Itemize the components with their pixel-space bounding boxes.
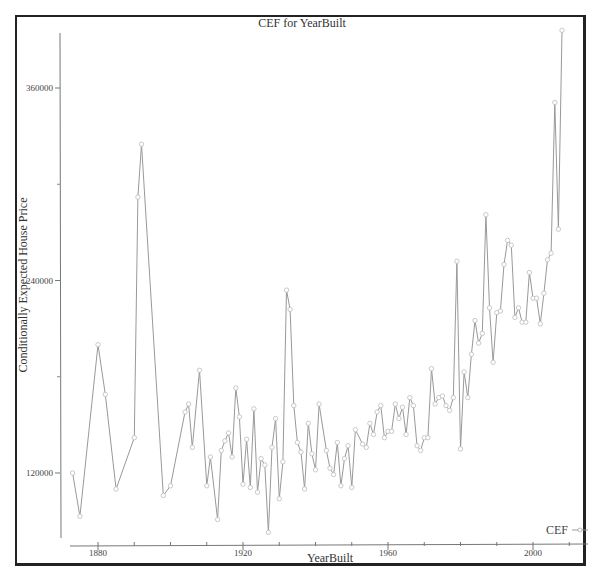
- data-point-marker: [415, 444, 419, 448]
- data-point-marker: [393, 402, 397, 406]
- data-point-marker: [219, 448, 223, 452]
- legend: CEF: [546, 523, 588, 537]
- data-point-marker: [542, 291, 546, 295]
- data-point-marker: [292, 403, 296, 407]
- x-tick-label: 2000: [524, 548, 543, 558]
- data-point-marker: [266, 530, 270, 534]
- x-axis-label: YearBuilt: [307, 551, 354, 565]
- data-point-marker: [132, 436, 136, 440]
- data-point-marker: [284, 288, 288, 292]
- data-point-marker: [259, 456, 263, 460]
- data-point-marker: [527, 270, 531, 274]
- data-point-marker: [161, 493, 165, 497]
- y-tick-label: 120000: [26, 468, 54, 478]
- data-point-marker: [534, 296, 538, 300]
- data-point-marker: [389, 429, 393, 433]
- data-point-marker: [426, 436, 430, 440]
- data-point-marker: [168, 484, 172, 488]
- data-point-marker: [545, 258, 549, 262]
- data-point-marker: [382, 436, 386, 440]
- y-axis-ticks: 120000240000360000: [26, 83, 60, 478]
- data-point-marker: [183, 410, 187, 414]
- data-point-marker: [524, 320, 528, 324]
- data-point-marker: [270, 445, 274, 449]
- legend-label-cef: CEF: [546, 523, 568, 537]
- data-point-marker: [306, 421, 310, 425]
- data-point-marker: [538, 322, 542, 326]
- data-point-marker: [342, 456, 346, 460]
- data-point-marker: [70, 471, 74, 475]
- data-point-marker: [368, 421, 372, 425]
- data-point-marker: [502, 262, 506, 266]
- data-point-marker: [302, 487, 306, 491]
- data-point-marker: [234, 386, 238, 390]
- y-axis-label: Conditionally Expected House Price: [16, 198, 30, 373]
- y-axis-line: [60, 33, 61, 538]
- data-point-marker: [237, 415, 241, 419]
- data-point-marker: [335, 440, 339, 444]
- data-point-marker: [408, 395, 412, 399]
- data-point-marker: [339, 484, 343, 488]
- data-point-marker: [484, 213, 488, 217]
- data-point-marker: [190, 445, 194, 449]
- data-point-marker: [397, 416, 401, 420]
- data-point-marker: [516, 306, 520, 310]
- data-point-marker: [241, 482, 245, 486]
- data-point-marker: [404, 432, 408, 436]
- x-tick-label: 1960: [379, 548, 398, 558]
- data-point-marker: [418, 448, 422, 452]
- data-point-marker: [299, 450, 303, 454]
- data-point-marker: [324, 448, 328, 452]
- data-point-marker: [476, 341, 480, 345]
- data-point-marker: [226, 431, 230, 435]
- data-point-marker: [473, 318, 477, 322]
- data-point-marker: [288, 307, 292, 311]
- cef-line: [73, 30, 562, 532]
- x-tick-label: 1880: [89, 548, 108, 558]
- data-point-marker: [197, 368, 201, 372]
- data-point-marker: [462, 370, 466, 374]
- data-point-marker: [103, 392, 107, 396]
- data-point-marker: [139, 142, 143, 146]
- data-point-marker: [136, 195, 140, 199]
- data-point-marker: [208, 455, 212, 459]
- data-point-marker: [553, 100, 557, 104]
- data-point-marker: [223, 439, 227, 443]
- data-point-marker: [310, 452, 314, 456]
- data-point-marker: [230, 455, 234, 459]
- data-point-marker: [440, 394, 444, 398]
- data-point-marker: [466, 395, 470, 399]
- data-point-marker: [556, 227, 560, 231]
- data-point-marker: [295, 440, 299, 444]
- data-point-marker: [328, 466, 332, 470]
- data-point-marker: [215, 517, 219, 521]
- y-tick-label: 240000: [26, 276, 54, 286]
- data-point-marker: [480, 331, 484, 335]
- data-point-marker: [346, 444, 350, 448]
- data-point-marker: [205, 484, 209, 488]
- legend-marker-icon: [578, 528, 582, 532]
- data-point-marker: [317, 402, 321, 406]
- x-axis-line: [70, 544, 588, 546]
- data-point-marker: [255, 490, 259, 494]
- data-point-marker: [252, 407, 256, 411]
- data-point-marker: [400, 405, 404, 409]
- data-point-marker: [277, 497, 281, 501]
- data-point-marker: [364, 445, 368, 449]
- data-point-marker: [371, 432, 375, 436]
- data-point-marker: [498, 309, 502, 313]
- y-tick-label: 360000: [26, 83, 54, 93]
- data-point-marker: [114, 487, 118, 491]
- chart-canvas: CEF for YearBuilt 120000240000360000 Con…: [0, 0, 603, 579]
- data-point-marker: [411, 403, 415, 407]
- data-point-marker: [186, 402, 190, 406]
- data-point-marker: [458, 447, 462, 451]
- data-point-marker: [360, 442, 364, 446]
- data-point-marker: [451, 395, 455, 399]
- data-point-marker: [263, 463, 267, 467]
- data-point-marker: [447, 408, 451, 412]
- data-point-marker: [509, 243, 513, 247]
- data-point-marker: [375, 410, 379, 414]
- data-point-marker: [469, 352, 473, 356]
- data-point-marker: [273, 416, 277, 420]
